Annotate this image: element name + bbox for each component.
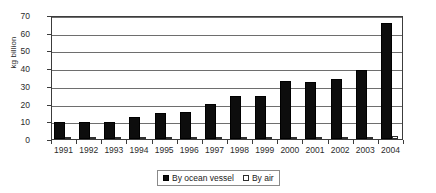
x-tick-mark	[227, 140, 228, 144]
legend-item-air: By air	[243, 173, 274, 183]
y-tick-label: 70	[8, 12, 30, 21]
bar-air	[191, 137, 197, 139]
bar-ocean-vessel	[180, 112, 191, 139]
y-tick-label: 20	[8, 101, 30, 110]
bar-air	[241, 137, 247, 139]
bar-group	[329, 17, 354, 139]
bar-group	[228, 17, 253, 139]
x-tick-mark	[101, 140, 102, 144]
bar-air	[266, 137, 272, 139]
bar-ocean-vessel	[305, 82, 316, 139]
plot-area	[51, 16, 403, 140]
y-tick-label: 0	[8, 136, 30, 145]
bar-ocean-vessel	[104, 122, 115, 139]
x-tick-mark	[328, 140, 329, 144]
bar-air	[140, 137, 146, 139]
bar-air	[367, 137, 373, 139]
bar-ocean-vessel	[155, 113, 166, 139]
bar-group	[52, 17, 77, 139]
bars-layer	[52, 17, 402, 139]
bar-group	[354, 17, 379, 139]
x-tick-mark	[202, 140, 203, 144]
x-tick-mark	[252, 140, 253, 144]
bar-group	[253, 17, 278, 139]
y-tick-label: 40	[8, 65, 30, 74]
bar-air	[115, 137, 121, 139]
x-tick-label: 2004	[373, 146, 407, 155]
x-tick-mark	[302, 140, 303, 144]
bar-ocean-vessel	[79, 122, 90, 139]
bar-chart: kg billion 010203040506070 1991199219931…	[0, 0, 436, 193]
legend-swatch-air-icon	[243, 175, 249, 181]
y-tick-label: 10	[8, 118, 30, 127]
bar-group	[77, 17, 102, 139]
x-tick-mark	[152, 140, 153, 144]
bar-group	[102, 17, 127, 139]
bar-group	[127, 17, 152, 139]
legend-item-ocean: By ocean vessel	[163, 173, 234, 183]
bar-ocean-vessel	[331, 79, 342, 139]
bar-ocean-vessel	[129, 117, 140, 139]
bar-air	[90, 137, 96, 139]
bar-group	[379, 17, 404, 139]
x-tick-mark	[126, 140, 127, 144]
bar-group	[153, 17, 178, 139]
y-tick-label: 50	[8, 47, 30, 56]
chart-legend: By ocean vessel By air	[157, 170, 280, 186]
bar-group	[303, 17, 328, 139]
bar-air	[65, 137, 71, 139]
y-tick-label: 60	[8, 30, 30, 39]
bar-ocean-vessel	[381, 23, 392, 139]
x-tick-mark	[353, 140, 354, 144]
bar-air	[342, 137, 348, 139]
bar-ocean-vessel	[255, 96, 266, 139]
legend-swatch-ocean-icon	[163, 175, 169, 181]
x-tick-mark	[378, 140, 379, 144]
bar-air	[216, 137, 222, 139]
x-tick-mark	[51, 140, 52, 144]
bar-group	[203, 17, 228, 139]
legend-label-air: By air	[252, 173, 274, 183]
bar-ocean-vessel	[356, 70, 367, 139]
bar-ocean-vessel	[280, 81, 291, 139]
bar-ocean-vessel	[230, 96, 241, 139]
bar-group	[278, 17, 303, 139]
bar-air	[316, 137, 322, 139]
bar-group	[178, 17, 203, 139]
bar-ocean-vessel	[54, 122, 65, 139]
bar-ocean-vessel	[205, 104, 216, 139]
bar-air	[392, 136, 398, 139]
bar-air	[166, 137, 172, 139]
bar-air	[291, 137, 297, 139]
x-tick-mark	[277, 140, 278, 144]
y-tick-label: 30	[8, 83, 30, 92]
x-tick-mark	[177, 140, 178, 144]
x-tick-mark	[403, 140, 404, 144]
x-tick-mark	[76, 140, 77, 144]
legend-label-ocean: By ocean vessel	[172, 173, 234, 183]
